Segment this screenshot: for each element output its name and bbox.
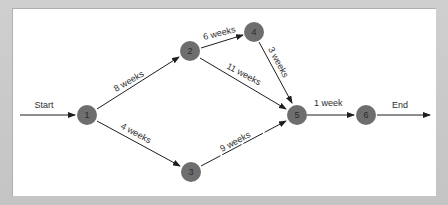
edge-3-5: [201, 121, 286, 166]
node-5-label: 5: [294, 110, 299, 120]
node-2: 2: [180, 41, 200, 61]
edge-label-5-6: 1 week: [314, 98, 343, 108]
node-4: 4: [244, 22, 264, 42]
network-diagram: Start End 8 weeks 4 weeks 6 weeks 11 wee…: [0, 0, 448, 205]
node-4-label: 4: [251, 27, 256, 37]
edge-label-2-4: 6 weeks: [202, 24, 237, 42]
node-1-label: 1: [84, 110, 89, 120]
node-3: 3: [181, 162, 201, 182]
node-6-label: 6: [363, 110, 368, 120]
node-6: 6: [356, 105, 376, 125]
node-5: 5: [287, 105, 307, 125]
node-1: 1: [77, 105, 97, 125]
edge-2-5: [200, 58, 286, 109]
node-2-label: 2: [187, 46, 192, 56]
end-label: End: [392, 100, 408, 110]
node-3-label: 3: [188, 167, 193, 177]
edge-1-2: [97, 57, 179, 109]
start-label: Start: [34, 100, 54, 110]
edge-label-2-5: 11 weeks: [225, 61, 263, 88]
